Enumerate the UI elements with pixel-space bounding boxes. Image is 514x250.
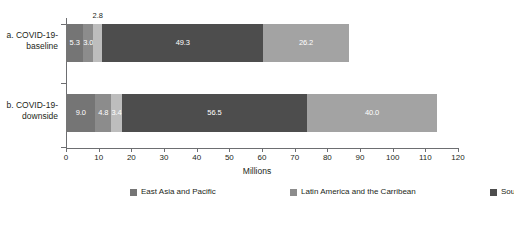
bar-segment-value-label: 5.3 <box>70 39 80 47</box>
bar-segment-value-label: 3.4 <box>112 109 122 117</box>
legend-swatch-icon <box>130 189 137 196</box>
x-tick-mark <box>458 148 459 152</box>
legend-swatch-icon <box>490 189 497 196</box>
x-tick-label: 90 <box>356 153 365 163</box>
x-tick-label: 50 <box>225 153 234 163</box>
x-tick-label: 110 <box>419 153 432 163</box>
x-tick-mark <box>131 148 132 152</box>
stacked-bar-chart: a. COVID-19- baseline b. COVID-19- downs… <box>0 0 514 250</box>
bar-segment-value-label: 4.8 <box>98 109 108 117</box>
bar-segment-value-label: 49.3 <box>176 39 190 47</box>
bar-segment: 26.2 <box>263 24 349 62</box>
legend-label: Latin America and the Carribean <box>301 186 416 198</box>
x-tick-mark <box>360 148 361 152</box>
x-tick-mark <box>262 148 263 152</box>
bar-row-downside: 9.04.83.456.540.0 <box>66 94 458 132</box>
bar-segment-value-label: 26.2 <box>299 39 313 47</box>
category-label-downside: b. COVID-19- downside <box>0 100 58 121</box>
legend-item[interactable]: South Asia <box>490 186 514 198</box>
legend-item[interactable]: Latin America and the Carribean <box>290 186 490 198</box>
x-tick-label: 120 <box>451 153 464 163</box>
x-tick-label: 60 <box>258 153 267 163</box>
bar-segment-value-label: 2.8 <box>93 12 103 20</box>
x-tick-mark <box>197 148 198 152</box>
bar-segment: 2.8 <box>93 24 102 62</box>
x-tick-label: 0 <box>64 153 68 163</box>
x-tick-mark <box>295 148 296 152</box>
legend-item[interactable]: East Asia and Pacific <box>130 186 290 198</box>
bar-segment: 3.0 <box>83 24 93 62</box>
x-tick-label: 30 <box>160 153 169 163</box>
category-label-downside-line1: b. COVID-19- <box>0 100 58 111</box>
stacked-bar-downside: 9.04.83.456.540.0 <box>66 94 437 132</box>
bar-segment-value-label: 40.0 <box>365 109 379 117</box>
legend-label: East Asia and Pacific <box>141 186 216 198</box>
bar-segment: 9.0 <box>66 94 95 132</box>
category-label-baseline: a. COVID-19- baseline <box>0 30 58 51</box>
x-tick-label: 20 <box>127 153 136 163</box>
x-tick-mark <box>425 148 426 152</box>
bar-row-baseline: 5.33.02.849.326.2 <box>66 24 458 62</box>
bar-segment-value-label: 3.0 <box>83 39 93 47</box>
legend-swatch-icon <box>290 189 297 196</box>
legend-label: South Asia <box>501 186 514 198</box>
x-tick-label: 70 <box>290 153 299 163</box>
x-tick-mark <box>99 148 100 152</box>
bar-segment-value-label: 56.5 <box>207 109 221 117</box>
x-tick-label: 40 <box>192 153 201 163</box>
x-tick-mark <box>229 148 230 152</box>
bar-segment: 3.4 <box>111 94 122 132</box>
chart-legend: East Asia and PacificLatin America and t… <box>130 186 490 198</box>
x-tick-mark <box>66 148 67 152</box>
x-axis-title: Millions <box>0 166 514 176</box>
category-label-downside-line2: downside <box>0 111 58 122</box>
stacked-bar-baseline: 5.33.02.849.326.2 <box>66 24 349 62</box>
x-tick-mark <box>164 148 165 152</box>
bar-segment: 40.0 <box>307 94 438 132</box>
x-tick-label: 10 <box>94 153 103 163</box>
bar-segment: 56.5 <box>122 94 307 132</box>
bar-segment: 4.8 <box>95 94 111 132</box>
x-tick-mark <box>327 148 328 152</box>
category-label-baseline-line1: a. COVID-19- <box>0 30 58 41</box>
category-label-baseline-line2: baseline <box>0 41 58 52</box>
x-tick-mark <box>393 148 394 152</box>
x-tick-label: 80 <box>323 153 332 163</box>
bar-segment-value-label: 9.0 <box>76 109 86 117</box>
bar-segment: 49.3 <box>102 24 263 62</box>
x-tick-label: 100 <box>386 153 399 163</box>
bar-segment: 5.3 <box>66 24 83 62</box>
plot-area: 5.33.02.849.326.2 9.04.83.456.540.0 <box>66 18 458 148</box>
